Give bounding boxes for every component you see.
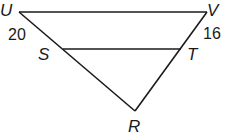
measure-label-vt: 16	[203, 26, 221, 42]
vertex-label-s: S	[38, 46, 49, 63]
vertex-label-t: T	[187, 46, 197, 63]
vertex-label-v: V	[207, 2, 218, 19]
triangle-diagram: U 20 S V 16 T R	[0, 0, 229, 139]
triangle-svg	[0, 0, 229, 139]
segment-ur	[19, 12, 135, 111]
vertex-label-r: R	[128, 118, 140, 135]
vertex-label-u: U	[0, 2, 12, 19]
measure-label-us: 20	[8, 27, 26, 43]
